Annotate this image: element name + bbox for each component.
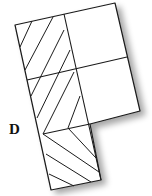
diagram-canvas [0, 0, 152, 196]
shape-group [15, 3, 140, 190]
outer-outline [15, 3, 140, 190]
diagram-label: D [9, 121, 20, 138]
